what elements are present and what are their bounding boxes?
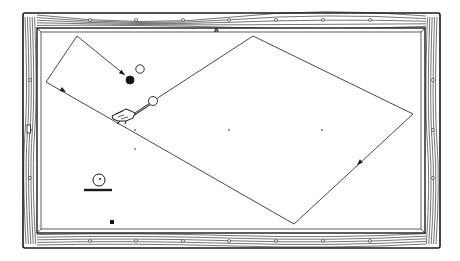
table-drawing [0,0,460,261]
diamond-top [368,19,371,22]
diamond-bottom [227,240,230,243]
diamond-bottom [274,240,277,243]
diamond-bottom [181,240,184,243]
table-spot [134,129,136,131]
billiard-diagram: A [0,0,460,261]
legend-ball [93,174,105,186]
diamond-left [29,176,32,179]
diamond-top [274,19,277,22]
legend-ball-spot [99,178,101,180]
black-object-ball [126,76,134,84]
playing-surface [41,32,421,229]
diamond-top [88,19,91,22]
side-pocket-marker [27,125,31,133]
diamond-top [181,19,184,22]
diamond-top [321,19,324,22]
diamond-top [134,19,137,22]
label-a: A [214,26,219,33]
legend-base-bar [84,189,112,191]
diamond-bottom [134,240,137,243]
small-square-marker [110,220,114,224]
diamond-right [432,78,435,81]
diamond-bottom [321,240,324,243]
diamond-bottom [88,240,91,243]
table-spot [228,129,230,131]
diamond-top [227,19,230,22]
diamond-right [432,128,435,131]
white-object-ball [136,65,144,73]
table-spot [321,129,323,131]
diamond-bottom [368,240,371,243]
diamond-right [432,176,435,179]
diamond-left [29,78,32,81]
table-spot [134,148,136,150]
cue-ball [149,97,158,106]
